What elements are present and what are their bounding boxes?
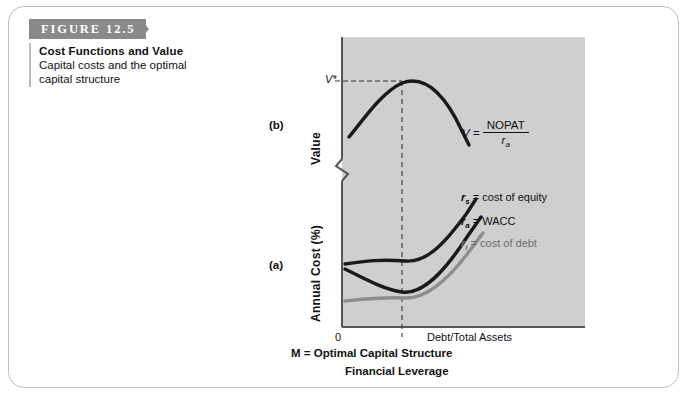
figure-card: FIGURE 12.5 Cost Functions and Value Cap… — [8, 6, 679, 388]
optimal-structure-caption: M = Optimal Capital Structure — [291, 347, 452, 359]
legend-wacc: ra = WACC — [461, 215, 515, 230]
legend-cost-of-debt: ri = cost of debt — [461, 237, 537, 252]
y-axis-break-icon — [336, 159, 348, 181]
formula-fraction: NOPAT ra — [483, 119, 529, 149]
legend-text-ra: = WACC — [473, 215, 516, 227]
formula-lhs: V — [462, 127, 470, 139]
x-axis-label: Debt/Total Assets — [427, 331, 512, 343]
legend-text-ri: = cost of debt — [471, 237, 537, 249]
formula-denominator: ra — [483, 133, 529, 149]
figure-title: Cost Functions and Value — [39, 45, 183, 57]
caption-divider — [29, 43, 31, 87]
legend-text-rs: = cost of equity — [473, 191, 547, 203]
legend-sub-ra: a — [465, 221, 469, 230]
figure-number-badge: FIGURE 12.5 — [29, 19, 146, 39]
curve-value — [349, 81, 469, 145]
financial-leverage-caption: Financial Leverage — [345, 365, 449, 377]
formula-equals: = — [473, 127, 480, 139]
x-tick-zero: 0 — [335, 331, 341, 343]
formula-denominator-sub: a — [505, 140, 509, 149]
chart-area: (b) (a) Value Annual Cost (%) V* — [269, 27, 604, 342]
legend-cost-of-equity: rs = cost of equity — [461, 191, 547, 206]
badge-arrow-icon — [140, 19, 149, 39]
value-formula: V = NOPAT ra — [462, 119, 529, 149]
formula-numerator: NOPAT — [483, 119, 529, 133]
legend-sub-ri: i — [465, 243, 467, 252]
figure-subtitle: Capital costs and the optimal capital st… — [39, 59, 189, 86]
chart-svg — [269, 27, 604, 342]
legend-sub-rs: s — [465, 197, 469, 206]
